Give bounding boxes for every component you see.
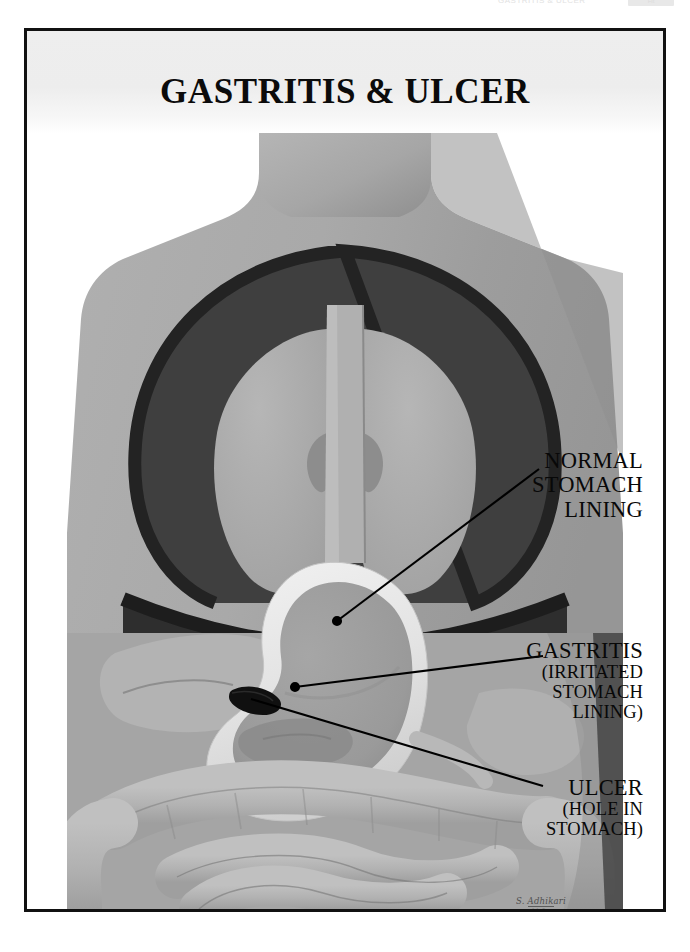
callout-ulcer: ULCER (HOLE IN STOMACH) (383, 776, 643, 840)
callout-gastritis-line-1: GASTRITIS (383, 639, 643, 663)
callout-gastritis: GASTRITIS (IRRITATED STOMACH LINING) (383, 639, 643, 723)
signature-name: S. Adhikari (505, 897, 577, 906)
callout-gastritis-line-4: LINING) (383, 703, 643, 723)
callout-gastritis-line-3: STOMACH (383, 683, 643, 703)
header-ghost-title: GASTRITIS & ULCER (498, 0, 586, 5)
artist-signature: S. Adhikari M.D. (505, 897, 577, 912)
callout-normal-line-3: LINING (383, 498, 643, 522)
page-title: GASTRITIS & ULCER (27, 72, 663, 112)
callout-normal-line-2: STOMACH (383, 473, 643, 497)
callout-gastritis-line-2: (IRRITATED (383, 663, 643, 683)
signature-credential: M.D. (505, 908, 577, 912)
esophagus (325, 305, 365, 563)
header-ghost-button[interactable]: Fit (628, 0, 674, 6)
callout-normal-line-1: NORMAL (383, 449, 643, 473)
poster-frame: GASTRITIS & ULCER (24, 28, 666, 912)
header-ghost-button-label: Fit (628, 0, 674, 6)
callout-normal-stomach-lining: NORMAL STOMACH LINING (383, 449, 643, 522)
callout-ulcer-line-1: ULCER (383, 776, 643, 800)
callout-ulcer-line-3: STOMACH) (383, 820, 643, 840)
page-header-strip: GASTRITIS & ULCER Fit (0, 0, 690, 12)
callout-ulcer-line-2: (HOLE IN (383, 800, 643, 820)
